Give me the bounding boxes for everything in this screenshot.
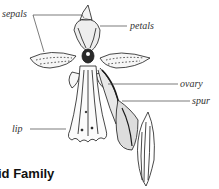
- lip-label: lip: [12, 124, 23, 134]
- sepals-label: sepals: [2, 9, 27, 19]
- spur-label: spur: [192, 96, 210, 106]
- orchid-illustration: [0, 0, 219, 189]
- orchid-diagram: sepals petals ovary spur lip id Family: [0, 0, 219, 189]
- diagram-caption: id Family: [0, 166, 54, 181]
- petals-label: petals: [130, 21, 154, 31]
- ovary-label: ovary: [180, 79, 203, 89]
